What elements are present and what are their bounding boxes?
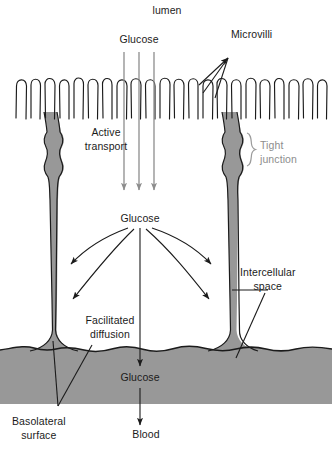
facilitated-line2: diffusion — [86, 327, 135, 341]
glucose-bottom-label: Glucose — [120, 371, 159, 384]
glucose-absorption-diagram: lumen Glucose Microvilli Active transpor… — [0, 0, 332, 452]
glucose-mid-label: Glucose — [120, 212, 159, 225]
active-transport-label: Active transport — [85, 125, 127, 153]
basolateral-line2: surface — [12, 428, 66, 442]
cell-wall-outlines — [30, 112, 258, 351]
tight-junction-line1: Tight — [260, 138, 297, 152]
basolateral-line1: Basolateral — [12, 414, 66, 428]
active-transport-line2: transport — [85, 139, 127, 153]
tight-junction-label: Tight junction — [260, 138, 297, 166]
facilitated-diffusion-label: Facilitated diffusion — [86, 313, 135, 341]
basolateral-region — [0, 346, 332, 404]
microvilli-pointer — [199, 58, 228, 98]
intercellular-line2: space — [240, 279, 296, 293]
blood-label: Blood — [132, 428, 159, 441]
lumen-label: lumen — [152, 4, 181, 17]
tight-junction-line2: junction — [260, 152, 297, 166]
active-transport-arrows — [124, 52, 154, 190]
facilitated-line1: Facilitated — [86, 313, 135, 327]
tight-junction-brace — [247, 133, 256, 166]
microvilli-band — [16, 78, 327, 119]
glucose-top-label: Glucose — [119, 33, 158, 46]
diagram-canvas — [0, 0, 332, 452]
intercellular-line1: Intercellular — [240, 265, 296, 279]
microvilli-label: Microvilli — [231, 28, 272, 41]
intercellular-space-label: Intercellular space — [240, 265, 296, 293]
basolateral-surface-label: Basolateral surface — [12, 414, 66, 442]
active-transport-line1: Active — [85, 125, 127, 139]
